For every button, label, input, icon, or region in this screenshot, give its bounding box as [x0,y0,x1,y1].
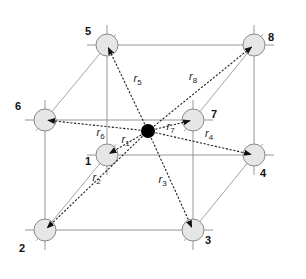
vector-label-r5: r5 [134,72,143,87]
lattice-diagram: 1r12r23r34r45r56r67r78r8 [0,0,306,279]
atom-8 [243,34,265,56]
atom-label-7: 7 [211,108,217,120]
vector-r5 [108,48,148,131]
atom-3 [182,219,204,241]
vector-label-r1: r1 [122,133,131,148]
vector-label-r6: r6 [97,126,106,141]
atom-4 [243,144,265,166]
atom-6 [34,109,56,131]
vector-label-r2: r2 [93,171,102,186]
vector-r3 [148,131,192,227]
atom-label-8: 8 [268,31,274,43]
atom-label-5: 5 [85,25,91,37]
vector-label-r7: r7 [167,120,176,135]
vector-r4 [148,131,251,154]
atom-label-6: 6 [15,100,21,112]
atom-7 [182,109,204,131]
vector-label-r3: r3 [159,173,168,188]
atom-label-4: 4 [260,167,267,179]
vector-label-r4: r4 [205,127,214,142]
vector-label-r8: r8 [189,70,198,85]
atom-label-1: 1 [85,155,91,167]
center-atom [141,124,155,138]
atom-2 [34,219,56,241]
atom-label-2: 2 [19,242,25,254]
atom-label-3: 3 [205,234,211,246]
atom-5 [96,34,118,56]
